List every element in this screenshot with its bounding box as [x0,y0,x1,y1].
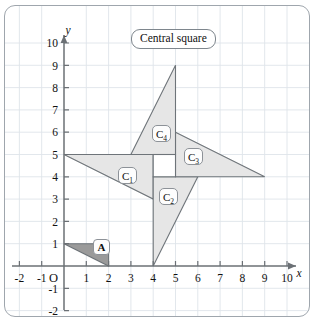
y-tick-label: 8 [52,82,58,94]
x-tick-label: 5 [173,272,179,284]
y-tick-label: -2 [48,305,58,317]
x-tick-label: 1 [83,272,89,284]
y-axis-label: y [64,24,71,37]
x-tick-label: -2 [15,272,25,284]
x-tick-label: 6 [195,272,201,284]
label-c1: C1 [118,167,137,184]
y-tick-label: 2 [52,216,58,228]
label-c4: C4 [152,125,171,142]
origin-label: O [49,271,58,285]
x-tick-label: 10 [281,272,293,284]
x-tick-label: 3 [128,272,134,284]
y-tick-label: 3 [52,193,58,205]
label-c3: C3 [184,148,203,165]
x-tick-label: 9 [262,272,268,284]
x-axis-arrowhead [288,263,296,270]
shape-central-square [153,155,175,177]
label-c4-sub: 4 [163,134,167,143]
y-axis-arrowhead [61,35,68,43]
y-tick-label: 10 [47,37,59,49]
x-axis-label: x [295,267,302,279]
central-square-callout-text: Central square [140,32,207,44]
x-tick-label: 2 [106,272,112,284]
y-tick-label: 6 [52,126,58,138]
x-tick-label: 7 [217,272,223,284]
figure-container: -2 -1 1 2 3 4 5 6 7 8 9 10 10 9 8 7 6 5 [0,0,316,323]
central-square-callout: Central square [131,29,216,49]
x-tick-label: 8 [240,272,246,284]
y-tick-label: 9 [52,60,58,72]
y-tick-label: 1 [52,238,58,250]
label-c2-sub: 2 [170,197,174,206]
x-tick-label: -1 [37,272,47,284]
y-tick-label: 5 [52,149,58,161]
label-c2: C2 [159,188,178,205]
label-a-text: A [98,241,106,253]
x-tick-label: 4 [150,272,156,284]
label-c1-sub: 1 [129,176,133,185]
label-a: A [93,239,110,255]
y-tick-label: 7 [52,104,58,116]
label-c3-sub: 3 [195,157,199,166]
y-tick-label: 4 [52,171,58,183]
